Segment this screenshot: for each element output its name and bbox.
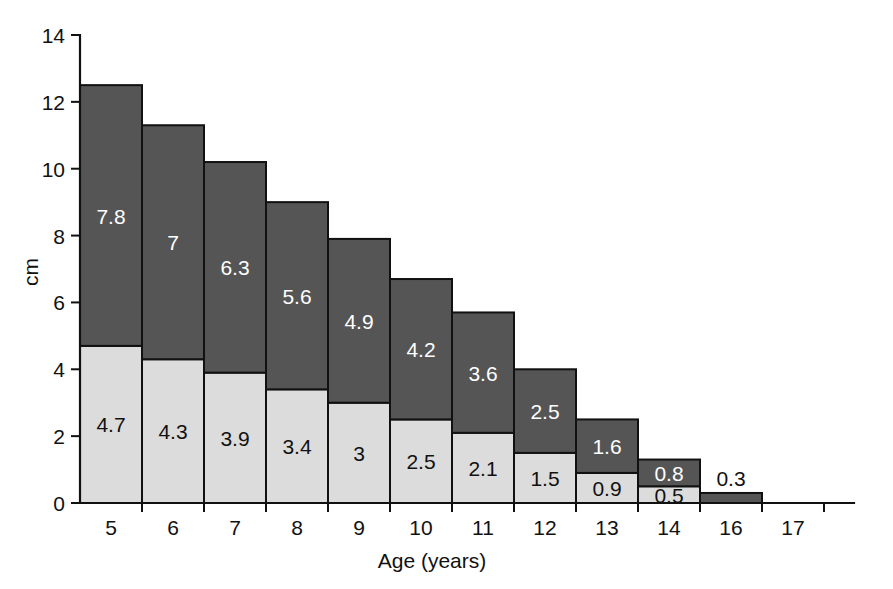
x-tick-label: 17 bbox=[781, 516, 804, 539]
x-tick-label: 14 bbox=[657, 516, 681, 539]
x-axis-ticks: 5678910111213141617 bbox=[105, 503, 824, 539]
bar-value-label-lower: 3 bbox=[353, 442, 365, 465]
x-tick-label: 5 bbox=[105, 516, 117, 539]
bar-value-label-lower: 2.1 bbox=[468, 457, 497, 480]
x-tick-label: 6 bbox=[167, 516, 179, 539]
bar-value-label-upper: 4.9 bbox=[344, 310, 373, 333]
x-tick-label: 13 bbox=[595, 516, 618, 539]
x-tick-label: 8 bbox=[291, 516, 303, 539]
y-axis-title: cm bbox=[19, 258, 42, 286]
bar-value-label-lower: 2.5 bbox=[406, 450, 435, 473]
bar-value-label-upper: 0.8 bbox=[654, 462, 683, 485]
y-tick-label: 10 bbox=[42, 158, 65, 181]
bar-value-label-upper: 2.5 bbox=[530, 400, 559, 423]
bar-value-label-upper: 3.6 bbox=[468, 362, 497, 385]
x-tick-label: 11 bbox=[472, 516, 494, 539]
bar-value-label-lower: 3.4 bbox=[282, 435, 312, 458]
y-tick-label: 14 bbox=[42, 24, 66, 47]
y-tick-label: 0 bbox=[53, 492, 65, 515]
bar-value-label-upper-outside: 0.3 bbox=[716, 467, 745, 490]
x-tick-label: 12 bbox=[533, 516, 556, 539]
y-tick-label: 8 bbox=[53, 225, 65, 248]
x-axis-title: Age (years) bbox=[378, 549, 487, 572]
bar-value-label-lower: 1.5 bbox=[530, 467, 559, 490]
bar-value-label-upper: 1.6 bbox=[592, 435, 621, 458]
bar-value-label-upper: 6.3 bbox=[220, 256, 249, 279]
x-tick-label: 10 bbox=[409, 516, 432, 539]
x-tick-label: 16 bbox=[719, 516, 742, 539]
y-tick-label: 2 bbox=[53, 425, 65, 448]
chart-container: 02468101214 5678910111213141617 4.77.84.… bbox=[0, 0, 893, 589]
y-tick-label: 4 bbox=[53, 358, 65, 381]
y-axis-ticks: 02468101214 bbox=[42, 24, 80, 515]
y-tick-label: 12 bbox=[42, 91, 65, 114]
y-tick-label: 6 bbox=[53, 291, 65, 314]
bar-value-label-lower: 0.9 bbox=[592, 477, 621, 500]
bar-value-label-upper: 7 bbox=[167, 231, 179, 254]
bar-value-label-upper: 4.2 bbox=[406, 338, 435, 361]
bar-segment-upper bbox=[700, 493, 762, 503]
bar-value-label-lower: 0.5 bbox=[654, 484, 683, 507]
x-tick-label: 7 bbox=[229, 516, 241, 539]
bar-value-label-upper: 7.8 bbox=[96, 205, 125, 228]
bar-value-label-lower: 3.9 bbox=[220, 427, 249, 450]
bar-value-label-lower: 4.7 bbox=[96, 413, 125, 436]
bar-value-label-upper: 5.6 bbox=[282, 285, 311, 308]
x-tick-label: 9 bbox=[353, 516, 365, 539]
stacked-bar-chart: 02468101214 5678910111213141617 4.77.84.… bbox=[0, 0, 893, 589]
bar-value-label-lower: 4.3 bbox=[158, 420, 187, 443]
